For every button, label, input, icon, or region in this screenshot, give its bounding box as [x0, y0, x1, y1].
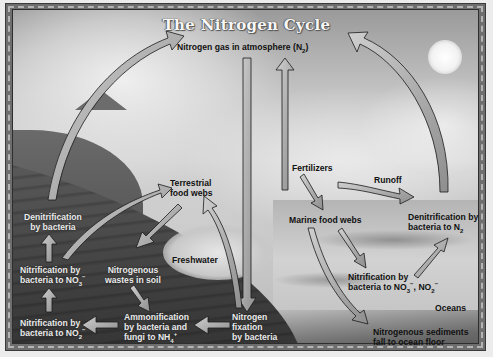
arrow-no2-to-no3 [41, 288, 57, 312]
diagram-title: The Nitrogen Cycle [0, 16, 493, 34]
label-oceans: Oceans [435, 303, 466, 313]
label-terrestrial-food-webs: Terrestrial food webs [170, 178, 213, 198]
label-runoff: Runoff [374, 175, 402, 185]
arrow-ammonification-to-no2 [82, 316, 118, 334]
cycle-arrows [0, 0, 493, 357]
label-nitrogen-fixation: Nitrogen fixation by bacteria [232, 312, 277, 342]
arrow-atmosphere-to-fixation [238, 58, 256, 312]
arrow-runoff [338, 182, 414, 204]
label-denitrification-land: Denitrification by bacteria [24, 212, 82, 232]
label-fertilizers: Fertilizers [292, 163, 333, 173]
arrow-terrestrial-to-wastes [136, 204, 182, 248]
arrow-wastes-to-ammonification [130, 285, 150, 312]
label-atmosphere: Nitrogen gas in atmosphere (N2) [177, 42, 308, 52]
label-nitrogenous-wastes: Nitrogenous wastes in soil [105, 265, 161, 285]
label-nitrification-no2-land: Nitrification by bacteria to NO2− [20, 318, 86, 338]
label-ammonification: Ammonification by bacteria and fungi to … [124, 312, 189, 342]
arrow-ocean-denitrification-to-atmosphere [348, 32, 448, 192]
label-nitrification-ocean: Nitrification by bacteria to NO3−, NO2− [348, 272, 438, 292]
label-nitrogenous-sediments: Nitrogenous sediments fall to ocean floo… [373, 327, 469, 347]
arrow-fixation-to-ammonification [194, 316, 230, 334]
label-nitrification-no3-land: Nitrification by bacteria to NO3− [20, 265, 86, 285]
arrow-denitrification-to-atmosphere [48, 31, 184, 200]
arrow-fertilizers-to-marine [300, 174, 323, 210]
arrow-marine-to-ocean-nitrification [338, 228, 366, 268]
label-marine-food-webs: Marine food webs [289, 215, 362, 225]
label-freshwater: Freshwater [172, 255, 218, 265]
arrow-fixation-to-terrestrial [203, 196, 242, 308]
arrow-no3-to-denitrification [41, 234, 57, 262]
label-denitrification-ocean: Denitrification by bacteria to N2 [408, 212, 478, 232]
